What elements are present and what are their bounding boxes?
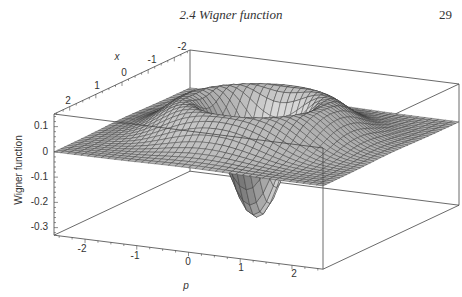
x-tick-label: -2 (178, 41, 187, 52)
z-tick-label: 0.1 (34, 120, 48, 131)
p-tick-label: 2 (291, 268, 297, 279)
x-tick-label: -1 (148, 54, 157, 65)
z-tick-label: -0.1 (31, 171, 49, 182)
x-axis-label: x (114, 51, 121, 62)
z-axis-label: Wigner function (13, 135, 24, 204)
z-tick-label: -0.3 (31, 221, 49, 232)
wigner-surface-plot: 0.1 0 -0.1 -0.2 -0.3 Wigner function -2 … (0, 0, 462, 297)
p-tick-label: 1 (238, 262, 244, 273)
x-tick-label: 1 (94, 80, 100, 91)
z-tick-label: -0.2 (31, 196, 49, 207)
p-tick-label: -2 (78, 243, 87, 254)
p-tick-label: 0 (185, 256, 191, 267)
x-tick-label: 2 (65, 95, 71, 106)
x-tick-label: 0 (121, 67, 127, 78)
p-tick-label: -1 (131, 250, 140, 261)
p-axis-label: p (182, 280, 189, 291)
z-tick-label: 0 (42, 146, 48, 157)
